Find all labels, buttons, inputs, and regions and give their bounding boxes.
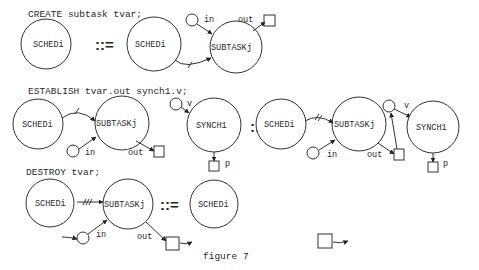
statement-destroy: DESTROY tvar; [26,167,100,178]
port-label-p: p [225,159,230,169]
produces-operator: ::= [160,196,179,213]
port-label-out: out [238,15,253,25]
port-label-out: out [128,148,143,158]
node-label: SCHEDi [135,40,166,50]
edge-in [319,140,335,150]
edge-sched-subtask [62,113,95,121]
port-in-circle [186,14,198,26]
port-label-p: p [443,159,448,169]
port-v-circle [170,98,182,110]
port-in-circle [77,232,89,244]
port-label-in: in [327,150,337,160]
node-label: SCHEDi [33,40,64,50]
port-label-in: in [85,148,95,158]
node-label: SYNCH1 [196,121,227,131]
port-in-circle [307,147,319,159]
rule-establish: ESTABLISH tvar.out synch1.v; SCHEDi SUBT… [13,86,459,172]
edge-in [197,24,212,34]
figure-caption: figure 7 [203,251,249,262]
port-out-square [154,146,164,157]
port-out-square [394,149,404,160]
port-label-v: v [187,99,192,109]
edge-out [253,22,265,31]
port-p-square [428,162,438,172]
port-label-v: v [404,101,409,111]
produces-operator: ::= [95,36,114,53]
node-label: SCHEDi [198,200,229,210]
port-out-square [264,15,275,26]
port-label-in: in [204,15,214,25]
detached-out-square [318,234,332,248]
rule-create: CREATE subtask tvar; SCHEDi ::= SCHEDi S… [21,9,275,73]
port-p-square [209,161,219,171]
node-label: SUBTASKj [211,43,252,53]
edge-sched-subtask [175,58,211,65]
port-label-in: in [96,230,106,240]
node-label: SCHEDi [264,120,295,130]
node-label: SCHEDi [22,120,53,130]
edge-from-out [180,242,192,244]
port-label-out: out [137,232,152,242]
edge-from-detached [333,241,348,243]
statement-create: CREATE subtask tvar; [28,9,142,20]
node-label: SCHEDi [35,199,66,209]
node-label: SUBTASKj [334,120,375,130]
statement-establish: ESTABLISH tvar.out synch1.v; [28,86,188,97]
port-in-circle [67,145,79,157]
node-label: SUBTASKj [96,119,137,129]
figure-7-diagram: CREATE subtask tvar; SCHEDi ::= SCHEDi S… [0,0,479,270]
port-out-square [166,237,179,250]
port-v-circle [383,100,395,112]
edge-into-in [62,237,77,239]
edge-out-to-v [391,113,397,149]
rule-destroy: DESTROY tvar; SCHEDi SUBTASKj in out ::=… [26,167,348,250]
node-label: SUBTASKj [104,200,145,210]
node-label: SYNCH1 [416,123,447,133]
port-label-out: out [367,150,382,160]
